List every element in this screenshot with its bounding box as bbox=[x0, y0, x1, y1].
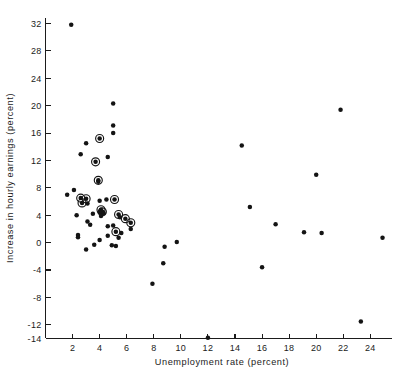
data-points-layer bbox=[65, 23, 385, 340]
scatter-chart-figure: -14-12-8-4048121620242832 24681012141618… bbox=[0, 0, 400, 371]
data-point bbox=[175, 240, 180, 245]
y-axis-title: Increase in hourly earnings (percent) bbox=[5, 93, 15, 263]
data-point bbox=[380, 236, 385, 241]
data-point bbox=[84, 247, 89, 252]
data-point bbox=[248, 205, 253, 210]
y-tick-label: 20 bbox=[31, 101, 42, 111]
data-point bbox=[206, 336, 211, 341]
data-point bbox=[85, 201, 90, 206]
x-tick-label: 16 bbox=[257, 343, 268, 353]
x-tick-label: 6 bbox=[124, 343, 129, 353]
x-tick-label: 14 bbox=[230, 343, 241, 353]
data-point bbox=[111, 223, 116, 228]
data-point bbox=[84, 141, 89, 146]
data-point bbox=[106, 224, 111, 229]
data-point bbox=[260, 265, 265, 270]
x-axis-ticks: 24681012141618202224 bbox=[70, 334, 376, 353]
data-point bbox=[106, 234, 111, 239]
data-point bbox=[302, 230, 307, 235]
y-tick-label: 28 bbox=[31, 46, 42, 56]
chart-canvas: -14-12-8-4048121620242832 24681012141618… bbox=[0, 0, 400, 371]
x-tick-label: 4 bbox=[97, 343, 102, 353]
y-tick-label: -8 bbox=[33, 293, 42, 303]
data-point bbox=[319, 231, 324, 236]
data-point bbox=[76, 235, 81, 240]
data-point bbox=[92, 242, 97, 247]
data-point bbox=[99, 214, 104, 219]
data-point bbox=[240, 143, 245, 148]
data-point bbox=[97, 238, 102, 243]
data-point bbox=[119, 231, 124, 236]
data-point bbox=[150, 281, 155, 286]
data-point bbox=[114, 244, 119, 249]
data-point bbox=[72, 188, 77, 193]
data-point bbox=[359, 319, 364, 324]
y-tick-label: 24 bbox=[31, 74, 42, 84]
y-tick-label: 32 bbox=[31, 19, 42, 29]
y-tick-label: -4 bbox=[33, 265, 42, 275]
data-point bbox=[111, 101, 116, 106]
x-tick-label: 12 bbox=[203, 343, 214, 353]
data-point bbox=[96, 179, 101, 184]
y-tick-label: 12 bbox=[31, 156, 42, 166]
data-point bbox=[273, 222, 278, 227]
data-point bbox=[161, 261, 166, 266]
data-point bbox=[78, 152, 83, 157]
x-tick-label: 8 bbox=[151, 343, 156, 353]
data-point bbox=[114, 229, 119, 234]
data-point bbox=[106, 155, 111, 160]
data-point bbox=[116, 236, 121, 241]
x-tick-label: 10 bbox=[176, 343, 187, 353]
data-point bbox=[111, 131, 116, 136]
data-point bbox=[65, 192, 70, 197]
y-tick-label: 8 bbox=[36, 183, 41, 193]
y-tick-label: 0 bbox=[36, 238, 41, 248]
y-axis-ticks: -14-12-8-4048121620242832 bbox=[28, 19, 51, 344]
data-point bbox=[97, 136, 102, 141]
x-tick-label: 2 bbox=[70, 343, 75, 353]
data-point bbox=[129, 221, 134, 226]
data-point bbox=[112, 197, 117, 202]
data-point bbox=[97, 199, 102, 204]
y-tick-label: 4 bbox=[36, 211, 41, 221]
x-axis-title: Unemployment rate (percent) bbox=[155, 357, 289, 367]
data-point bbox=[69, 23, 74, 28]
data-point bbox=[129, 227, 134, 232]
y-tick-label: -14 bbox=[28, 334, 42, 344]
data-point bbox=[338, 108, 343, 113]
x-tick-label: 24 bbox=[365, 343, 376, 353]
data-point bbox=[110, 243, 115, 248]
data-point bbox=[314, 173, 319, 178]
data-point bbox=[74, 213, 79, 218]
data-point bbox=[88, 223, 93, 228]
x-tick-label: 22 bbox=[338, 343, 349, 353]
x-tick-label: 18 bbox=[284, 343, 295, 353]
data-point bbox=[162, 244, 167, 249]
data-point bbox=[111, 123, 116, 128]
data-point bbox=[104, 197, 109, 202]
data-point bbox=[80, 201, 85, 206]
data-point bbox=[93, 160, 98, 165]
y-tick-label: 16 bbox=[31, 128, 42, 138]
x-tick-label: 20 bbox=[311, 343, 322, 353]
data-point bbox=[91, 212, 96, 217]
y-tick-label: -12 bbox=[28, 320, 42, 330]
data-point bbox=[123, 216, 128, 221]
